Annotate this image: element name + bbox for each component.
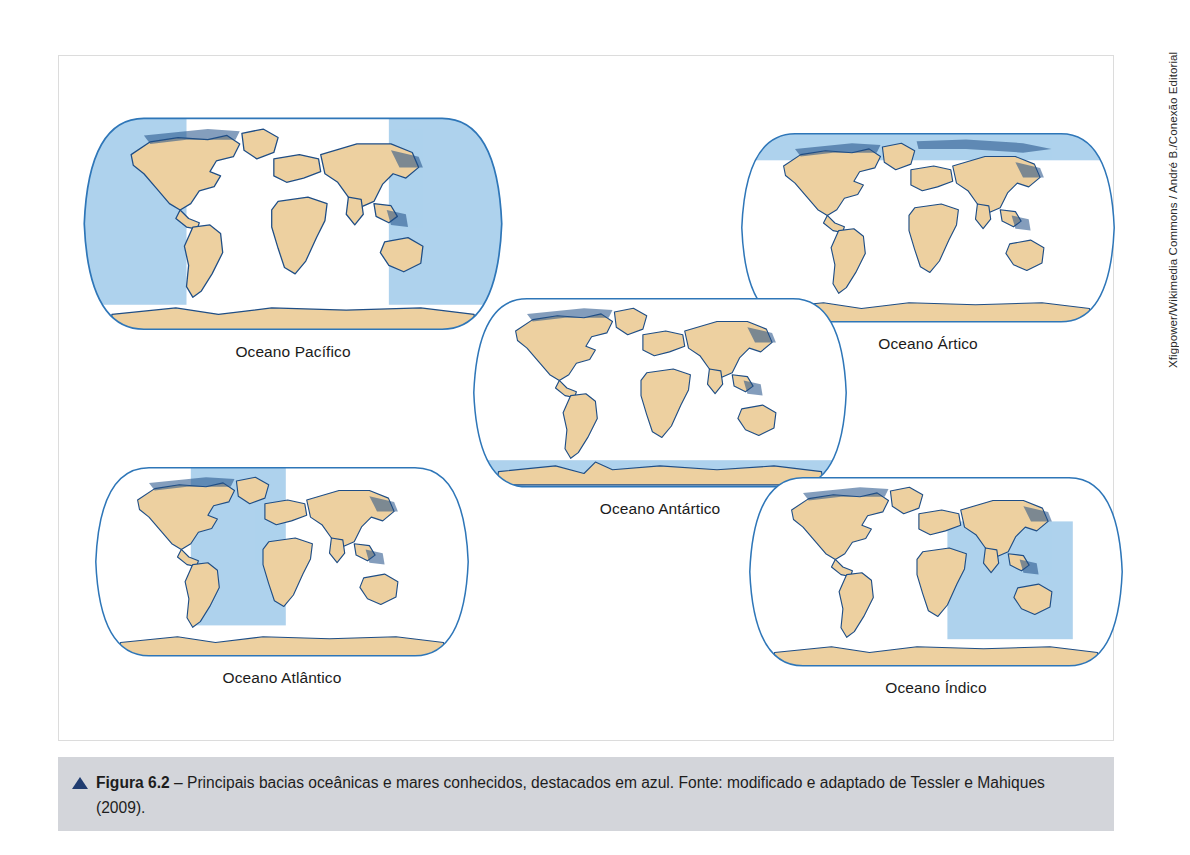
figure-caption: Figura 6.2 – Principais bacias oceânicas…	[58, 757, 1114, 820]
map-card-indico: Oceano Índico	[746, 472, 1126, 697]
map-graphic-atlantico	[92, 462, 472, 662]
map-card-pacifico: Oceano Pacífico	[80, 112, 506, 361]
map-graphic-pacifico	[80, 112, 506, 336]
figure-caption-bar: Figura 6.2 – Principais bacias oceânicas…	[58, 757, 1114, 831]
map-label-pacifico: Oceano Pacífico	[80, 343, 506, 361]
figure-caption-label: Figura 6.2	[96, 774, 170, 791]
map-graphic-antartico	[470, 293, 850, 493]
map-card-atlantico: Oceano Atlântico	[92, 462, 472, 687]
triangle-up-icon	[72, 777, 88, 789]
map-label-atlantico: Oceano Atlântico	[92, 669, 472, 687]
map-graphic-indico	[746, 472, 1126, 672]
photo-credit: Xfigpower/Wikimedia Commons / André B./C…	[1162, 38, 1184, 368]
figure-caption-text: – Principais bacias oceânicas e mares co…	[96, 774, 1045, 816]
map-label-indico: Oceano Índico	[746, 679, 1126, 697]
